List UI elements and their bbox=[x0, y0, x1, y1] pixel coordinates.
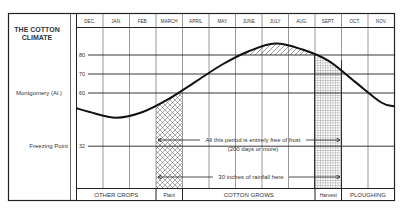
month-label: FEB. bbox=[138, 19, 148, 24]
phase-label: PLOUGHING bbox=[350, 192, 386, 198]
freezing-point-label: Freezing Point bbox=[29, 143, 68, 149]
y-tick-label: 32 bbox=[79, 143, 85, 149]
month-label: JUNE bbox=[243, 19, 255, 24]
month-label: NOV. bbox=[376, 19, 387, 24]
location-label: Montgomery (Al.) bbox=[16, 90, 62, 96]
harvest-region bbox=[314, 40, 341, 188]
month-label: JULY bbox=[270, 19, 281, 24]
svg-text:(200 days or more): (200 days or more) bbox=[228, 146, 279, 152]
month-label: OCT. bbox=[350, 19, 360, 24]
month-label: JAN. bbox=[111, 19, 121, 24]
chart-title-line1: THE COTTON bbox=[14, 26, 59, 33]
month-label: DEC. bbox=[84, 19, 95, 24]
y-tick-label: 70 bbox=[79, 71, 85, 77]
phase-label: COTTON GROWS bbox=[224, 192, 274, 198]
month-label: AUG. bbox=[296, 19, 307, 24]
month-label: MARCH bbox=[161, 19, 178, 24]
frost-free-annotation: All this period is entirely free of fros… bbox=[205, 137, 300, 143]
cotton-climate-chart: DEC.JAN.FEB.MARCHAPRILMAYJUNEJULYAUG.SEP… bbox=[0, 0, 405, 211]
phase-row: OTHER CROPSPlantCOTTON GROWSHarvestPLOUG… bbox=[77, 189, 394, 201]
y-tick-label: 60 bbox=[79, 90, 85, 96]
phase-label: OTHER CROPS bbox=[94, 192, 138, 198]
phase-label: Plant bbox=[164, 192, 176, 198]
month-label: SEPT. bbox=[322, 19, 335, 24]
phase-label: Harvest bbox=[320, 192, 338, 198]
rainfall-annotation: 30 inches of rainfall here bbox=[218, 174, 284, 180]
month-label: MAY bbox=[217, 19, 227, 24]
y-tick-label: 80 bbox=[79, 52, 85, 58]
plant-region bbox=[156, 93, 182, 188]
chart-title-line2: CLIMATE bbox=[22, 34, 53, 41]
month-label: APRIL bbox=[189, 19, 203, 24]
